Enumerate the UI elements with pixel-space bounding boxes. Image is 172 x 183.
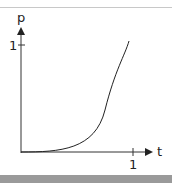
- y-axis-label: p: [17, 11, 25, 24]
- easing-plot: [0, 0, 172, 183]
- x-tick-label: 1: [129, 158, 137, 171]
- y-arrow-icon: [17, 27, 25, 35]
- bottom-band: [0, 175, 172, 183]
- easing-curve: [21, 41, 129, 152]
- y-tick-label: 1: [9, 39, 17, 52]
- x-axis-label: t: [157, 145, 162, 158]
- x-arrow-icon: [145, 148, 153, 156]
